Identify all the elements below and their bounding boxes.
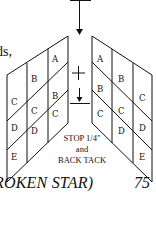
svg-text:C: C: [11, 97, 18, 107]
instruction-line-2: and: [52, 144, 112, 155]
svg-text:A: A: [96, 54, 104, 64]
stop-arrowhead-icon: [77, 97, 83, 102]
svg-text:D: D: [139, 123, 146, 133]
instruction-line-1: STOP 1/4": [52, 133, 112, 144]
svg-text:B: B: [52, 91, 58, 101]
svg-text:C: C: [97, 109, 104, 119]
svg-text:C: C: [139, 93, 146, 103]
svg-text:C: C: [118, 106, 125, 116]
svg-text:C: C: [52, 109, 59, 119]
svg-text:D: D: [31, 126, 38, 136]
svg-text:A: A: [51, 54, 59, 64]
instruction-line-3: BACK TACK: [52, 155, 112, 166]
svg-text:D: D: [118, 126, 125, 136]
svg-text:B: B: [31, 74, 37, 84]
svg-text:B: B: [118, 74, 124, 84]
svg-text:C: C: [31, 106, 38, 116]
page-number: 75: [134, 174, 150, 191]
svg-text:B: B: [97, 84, 103, 94]
figure-caption: ROKEN STAR): [0, 174, 93, 191]
svg-text:E: E: [139, 152, 145, 162]
svg-text:E: E: [11, 152, 17, 162]
stop-instruction: STOP 1/4" and BACK TACK: [52, 133, 112, 166]
arrowhead-icon: [76, 29, 83, 35]
svg-text:D: D: [11, 123, 18, 133]
